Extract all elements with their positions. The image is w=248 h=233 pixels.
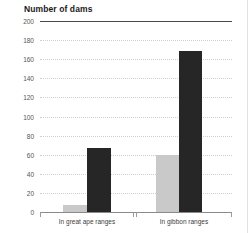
y-tick-label: 160: [23, 56, 34, 63]
plot-area: [40, 21, 232, 212]
bar-gibbon-light[interactable]: [156, 155, 179, 211]
y-tick-label: 20: [27, 189, 34, 196]
y-tick-label: 100: [23, 113, 34, 120]
gridline-40: [40, 174, 232, 175]
gridline-120: [40, 97, 232, 98]
y-axis-tick-labels: 200 180 160 140 120 100 80 60 40 20 0: [0, 21, 36, 212]
x-axis: In great ape ranges In gibbon ranges: [40, 212, 232, 233]
y-tick-label: 200: [23, 18, 34, 25]
gridline-60: [40, 155, 232, 156]
gridline-20: [40, 193, 232, 194]
x-group-bracket: [136, 212, 232, 217]
y-tick-label: 60: [27, 151, 34, 158]
y-tick-label: 180: [23, 37, 34, 44]
y-tick-label: 0: [30, 209, 34, 216]
gridline-180: [40, 40, 232, 41]
y-tick-label: 120: [23, 94, 34, 101]
x-group-bracket: [40, 212, 134, 217]
gridline-100: [40, 117, 232, 118]
y-tick-label: 140: [23, 75, 34, 82]
y-tick-label: 80: [27, 132, 34, 139]
chart-title: Number of dams: [24, 4, 92, 14]
chart-container: Number of dams 200 180 160 140 120 100 8…: [0, 0, 248, 233]
gridline-80: [40, 136, 232, 137]
y-tick-label: 40: [27, 170, 34, 177]
gridline-160: [40, 59, 232, 60]
x-group-label-gibbon: In gibbon ranges: [136, 218, 232, 225]
x-group-label-great-ape: In great ape ranges: [40, 218, 134, 225]
bar-gibbon-dark[interactable]: [179, 51, 202, 211]
gridline-140: [40, 78, 232, 79]
gridline-200: [40, 21, 232, 22]
bar-great-ape-dark[interactable]: [87, 148, 111, 211]
bar-great-ape-light[interactable]: [63, 205, 87, 212]
